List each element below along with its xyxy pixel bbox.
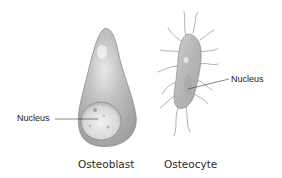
osteoblast-nucleus-label: Nucleus: [17, 114, 50, 123]
osteoblast-caption: Osteoblast: [78, 159, 134, 170]
osteocyte-nucleus: [184, 74, 192, 94]
cell-illustration: [0, 0, 282, 178]
figure-canvas: Nucleus Nucleus Osteoblast Osteocyte: [0, 0, 282, 178]
osteoblast-cell: [78, 29, 136, 147]
osteocyte-nucleus-label: Nucleus: [231, 75, 264, 84]
osteocyte-caption: Osteocyte: [164, 159, 217, 170]
osteocyte-body: [174, 34, 201, 109]
